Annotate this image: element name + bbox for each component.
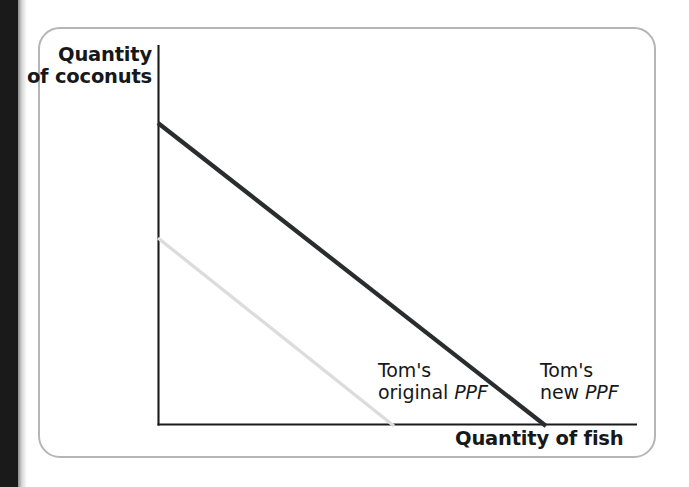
new-ppf-label-line1: Tom's bbox=[540, 360, 618, 382]
new-ppf-label: Tom's new PPF bbox=[540, 360, 618, 403]
original-ppf-label-prefix: original bbox=[378, 381, 448, 403]
original-ppf-label-acronym: PPF bbox=[454, 381, 488, 403]
new-ppf-label-prefix: new bbox=[540, 381, 579, 403]
new-ppf-label-line2: new PPF bbox=[540, 382, 618, 404]
y-axis-label-line1: Quantity bbox=[27, 44, 152, 66]
page-edge-gutter bbox=[0, 0, 18, 487]
new-ppf-label-acronym: PPF bbox=[585, 381, 619, 403]
y-axis-label: Quantity of coconuts bbox=[27, 44, 152, 88]
original-ppf-label: Tom's original PPF bbox=[378, 360, 488, 403]
y-axis-label-line2: of coconuts bbox=[27, 66, 152, 88]
page-edge-shadow bbox=[18, 0, 27, 487]
original-ppf-label-line1: Tom's bbox=[378, 360, 488, 382]
original-ppf-label-line2: original PPF bbox=[378, 382, 488, 404]
x-axis-label: Quantity of fish bbox=[455, 428, 623, 450]
